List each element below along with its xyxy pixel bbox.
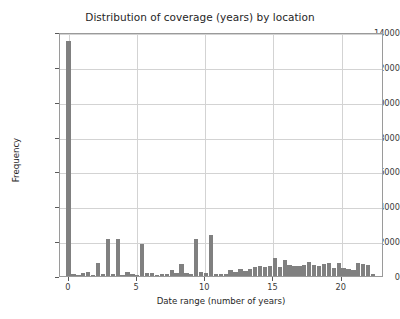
histogram-bar xyxy=(199,272,203,276)
gridline-horizontal xyxy=(60,173,382,174)
plot-area xyxy=(59,33,383,277)
histogram-bar xyxy=(351,270,355,276)
histogram-bar xyxy=(337,263,341,276)
x-tick-label: 10 xyxy=(184,282,224,292)
histogram-bar xyxy=(243,271,247,276)
histogram-bar xyxy=(228,270,232,276)
histogram-bar xyxy=(135,275,139,276)
histogram-bar xyxy=(174,273,178,276)
histogram-bar xyxy=(170,270,174,276)
histogram-bar xyxy=(273,258,277,276)
histogram-bar xyxy=(292,266,296,276)
gridline-vertical xyxy=(273,34,274,276)
histogram-bar xyxy=(346,269,350,276)
histogram-bar xyxy=(165,274,169,276)
histogram-bar xyxy=(96,263,100,276)
histogram-bar xyxy=(238,269,242,276)
histogram-bar xyxy=(179,264,183,276)
histogram-bar xyxy=(361,264,365,276)
histogram-bar xyxy=(214,274,218,276)
y-axis-label: Frequency xyxy=(11,100,21,220)
x-tick-label: 0 xyxy=(48,282,88,292)
histogram-bar xyxy=(341,268,345,276)
histogram-bar xyxy=(283,260,287,276)
x-tick-mark xyxy=(136,277,137,281)
histogram-bar xyxy=(111,274,115,276)
gridline-horizontal xyxy=(60,104,382,105)
gridline-vertical xyxy=(137,34,138,276)
x-tick-label: 20 xyxy=(321,282,361,292)
histogram-bar xyxy=(106,239,110,276)
histogram-bar xyxy=(268,266,272,276)
histogram-bar xyxy=(76,275,80,276)
histogram-bar xyxy=(371,274,375,276)
x-tick-mark xyxy=(341,277,342,281)
histogram-bar xyxy=(209,235,213,276)
histogram-bar xyxy=(263,267,267,276)
x-tick-mark xyxy=(68,277,69,281)
histogram-bar xyxy=(307,262,311,276)
histogram-bar xyxy=(366,265,370,276)
histogram-bar xyxy=(81,273,85,276)
chart-title: Distribution of coverage (years) by loca… xyxy=(0,11,400,23)
histogram-bar xyxy=(155,275,159,276)
histogram-bar xyxy=(125,272,129,276)
histogram-bar xyxy=(258,266,262,276)
histogram-bar xyxy=(145,273,149,276)
histogram-bar xyxy=(332,268,336,276)
histogram-bar xyxy=(219,274,223,276)
histogram-bar xyxy=(312,265,316,276)
chart-figure: Distribution of coverage (years) by loca… xyxy=(0,0,400,319)
histogram-bar xyxy=(302,265,306,276)
histogram-bar xyxy=(327,263,331,276)
histogram-bar xyxy=(130,274,134,276)
gridline-vertical xyxy=(205,34,206,276)
histogram-bar xyxy=(140,244,144,276)
histogram-bar xyxy=(160,274,164,276)
histogram-bar xyxy=(91,275,95,276)
gridline-horizontal xyxy=(60,34,382,35)
gridline-vertical xyxy=(342,34,343,276)
gridline-horizontal xyxy=(60,69,382,70)
histogram-bar xyxy=(317,266,321,276)
histogram-bar xyxy=(116,239,120,276)
histogram-bar xyxy=(224,274,228,276)
histogram-bar xyxy=(189,274,193,276)
x-tick-mark xyxy=(272,277,273,281)
histogram-bar xyxy=(101,274,105,276)
histogram-bar xyxy=(120,275,124,276)
histogram-bar xyxy=(86,272,90,276)
y-tick-mark xyxy=(55,277,59,278)
gridline-horizontal xyxy=(60,208,382,209)
histogram-bar xyxy=(287,265,291,276)
histogram-bar xyxy=(204,273,208,276)
histogram-bar xyxy=(297,266,301,276)
histogram-bar xyxy=(248,269,252,276)
histogram-bar xyxy=(71,274,75,276)
x-axis-label: Date range (number of years) xyxy=(59,296,383,306)
x-tick-mark xyxy=(204,277,205,281)
histogram-bar xyxy=(253,267,257,276)
histogram-bar xyxy=(322,264,326,276)
histogram-bar xyxy=(184,273,188,276)
histogram-bar xyxy=(150,273,154,276)
x-tick-label: 15 xyxy=(252,282,292,292)
histogram-bar xyxy=(66,41,70,276)
x-tick-label: 5 xyxy=(116,282,156,292)
histogram-bar xyxy=(278,267,282,276)
histogram-bar xyxy=(233,272,237,276)
histogram-bar xyxy=(356,263,360,276)
histogram-bar xyxy=(194,239,198,276)
gridline-horizontal xyxy=(60,139,382,140)
